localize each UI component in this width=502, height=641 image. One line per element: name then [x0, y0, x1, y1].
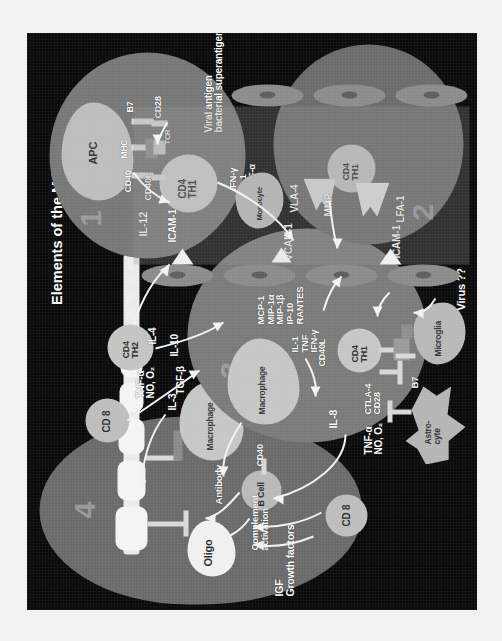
diagram-stage: 4 Oligo B Cell CD40	[27, 33, 477, 610]
arrow-layer	[27, 33, 477, 610]
figure-frame: Elements of the MS lesion 4 Olig	[0, 0, 502, 641]
figure-canvas: Elements of the MS lesion 4 Olig	[27, 33, 477, 610]
